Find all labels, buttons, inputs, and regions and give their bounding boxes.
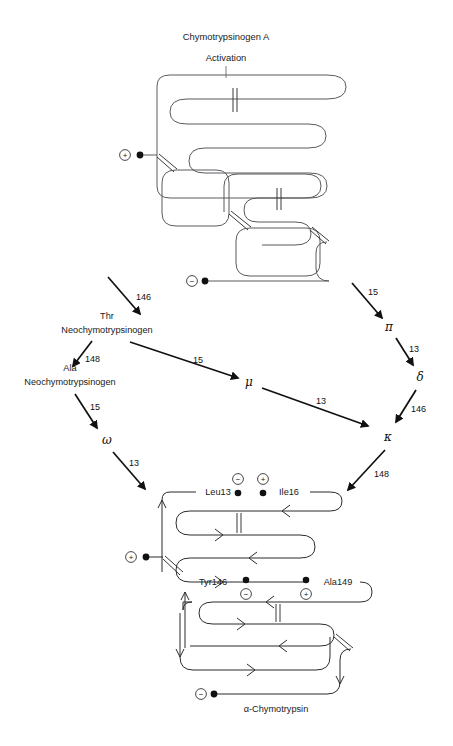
- c-terminus-charge-label: −: [190, 277, 195, 286]
- leu13-dot: [235, 490, 242, 497]
- chain-segment-upper2: [189, 148, 327, 198]
- label-kappa: κ: [383, 430, 392, 444]
- bottom-caption: α-Chymotrypsin: [244, 704, 309, 714]
- arrow-label-pi-to-delta: 13: [409, 344, 419, 354]
- arrow-thr-to-mu: [130, 342, 238, 378]
- ala149-dot: [303, 577, 310, 584]
- label-ile16: Ile16: [279, 487, 299, 497]
- figure-title-line1: Chymotrypsinogen A: [183, 31, 270, 42]
- arrow-label-thr-to-ala: 148: [85, 354, 100, 364]
- alpha-chymotrypsin-structure: Leu13 − + Ile16 + Tyr146 − +: [126, 474, 372, 700]
- label-thr-neochymotrypsinogen-line1: Thr: [100, 311, 114, 321]
- chain-segment-mid-right: [224, 174, 321, 245]
- ile16-charge-label: +: [261, 475, 266, 484]
- tyr146-dot: [243, 577, 250, 584]
- label-ala-neochymotrypsinogen-line2: Neochymotrypsinogen: [24, 377, 115, 387]
- arrow-label-omega-to-product: 13: [129, 458, 139, 468]
- arrow-label-delta-to-kappa: 146: [411, 404, 426, 414]
- chain-segment-upper3: [157, 160, 310, 198]
- figure-title-line2: Activation: [206, 52, 247, 63]
- arrow-label-kappa-to-product: 148: [374, 469, 389, 479]
- bottom-c-terminus-charge-label: −: [199, 690, 204, 699]
- chain-lower-joint: [183, 602, 192, 610]
- label-mu: μ: [245, 375, 253, 389]
- arrow-mu-to-kappa: [262, 388, 368, 426]
- leu13-charge-label: −: [236, 475, 241, 484]
- bottom-n-terminus-dot: [143, 554, 150, 561]
- label-thr-neochymotrypsinogen-line2: Neochymotrypsinogen: [61, 325, 152, 335]
- label-delta: δ: [416, 370, 423, 384]
- n-terminus-dot: [137, 152, 144, 159]
- chain-loop-bottom-block: [236, 228, 320, 276]
- c-terminus-dot: [202, 278, 209, 285]
- arrow-label-mu-to-kappa: 13: [316, 396, 326, 406]
- n-terminus-charge-label: +: [123, 151, 128, 160]
- arrow-label-thr-to-mu: 15: [193, 355, 203, 365]
- chain-c-serpentine: [190, 582, 372, 646]
- bottom-c-terminus-dot: [211, 691, 218, 698]
- ile16-dot: [260, 490, 267, 497]
- arrow-label-ala-to-omega: 15: [90, 402, 100, 412]
- arrow-label-zymogen-to-pi: 15: [368, 287, 378, 297]
- ala149-charge-label: +: [304, 590, 309, 599]
- arrow-label-zymogen-to-thr: 146: [136, 292, 151, 302]
- label-ala-neochymotrypsinogen-line1: Ala: [63, 363, 77, 373]
- chain-b-serpentine-upper: [176, 492, 342, 582]
- label-ala149: Ala149: [324, 577, 353, 587]
- chymotrypsinogen-structure: + −: [120, 75, 346, 286]
- tyr146-charge-label: −: [244, 590, 249, 599]
- label-leu13: Leu13: [205, 487, 231, 497]
- label-omega: ω: [102, 433, 112, 447]
- bottom-n-terminus-charge-label: +: [129, 553, 134, 562]
- label-tyr146: Tyr146: [199, 577, 227, 587]
- label-pi: π: [384, 320, 394, 334]
- chain-segment-upper: [157, 75, 346, 160]
- chymotrypsinogen-activation-figure: Chymotrypsinogen A Activation +: [0, 0, 453, 746]
